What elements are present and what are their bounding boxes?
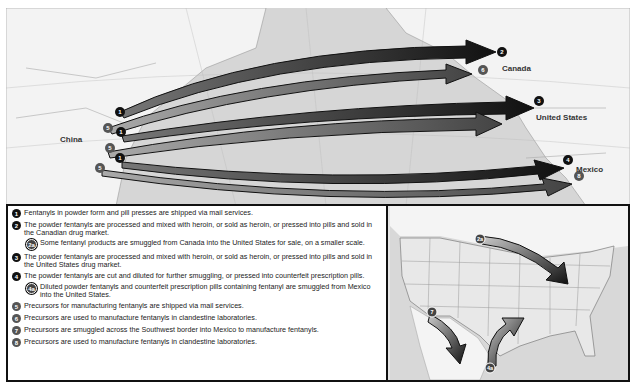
legend-item-3: 3The powder fentanyls are processed and … [12, 253, 382, 269]
marker-8-icon: 8 [12, 338, 21, 347]
legend-item-7: 7Precursors are smuggled across the Sout… [12, 326, 382, 335]
legend-item-2a: 2aSome fentanyl products are smuggled fr… [26, 239, 382, 250]
svg-text:4a: 4a [487, 365, 494, 371]
svg-text:7: 7 [430, 309, 433, 315]
marker-2-icon: 2 [12, 221, 21, 230]
marker-4a-icon: 4a [26, 283, 37, 294]
legend-item-1: 1Fentanyls in powder form and pill press… [12, 209, 382, 218]
legend-item-2: 2The powder fentanyls are processed and … [12, 221, 382, 237]
label-canada: Canada [502, 64, 531, 73]
marker-1-icon: 1 [12, 209, 21, 218]
label-mexico: Mexico [576, 165, 603, 174]
legend-item-4: 4The powder fentanyls are cut and dilute… [12, 272, 382, 281]
us-inset-map: 2a 7 4a [390, 206, 628, 380]
legend: 1Fentanyls in powder form and pill press… [8, 206, 388, 380]
route-map-graphic: 1 5 1 5 1 5 2 6 3 4 8 [6, 8, 630, 206]
svg-text:2a: 2a [477, 236, 484, 242]
marker-5-icon: 5 [12, 302, 21, 311]
marker-7-icon: 7 [12, 326, 21, 335]
legend-item-6: 6Precursors are used to manufacture fent… [12, 314, 382, 323]
marker-6-icon: 6 [12, 314, 21, 323]
marker-3-icon: 3 [12, 253, 21, 262]
pacific-route-map: 1 5 1 5 1 5 2 6 3 4 8 China Canada Unite… [6, 8, 630, 206]
marker-4-icon: 4 [12, 272, 21, 281]
legend-item-8: 8Precursors are used to manufacture fent… [12, 338, 382, 347]
label-china: China [60, 135, 82, 144]
label-united-states: United States [536, 113, 587, 122]
marker-2a-icon: 2a [26, 239, 37, 250]
legend-item-4a: 4aDiluted powder fentanyls and counterfe… [26, 283, 382, 299]
legend-item-5: 5Precursors for manufacturing fentanyls … [12, 302, 382, 311]
inset-map-graphic: 2a 7 4a [390, 206, 628, 380]
